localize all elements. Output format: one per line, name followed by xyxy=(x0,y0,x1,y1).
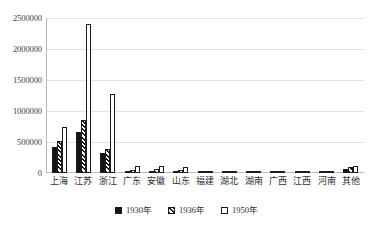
bar-group xyxy=(266,18,290,173)
bar-chart: 2500000 2000000 1500000 1000000 500000 0… xyxy=(0,0,373,236)
bar-group xyxy=(47,18,71,173)
x-axis-label: 山东 xyxy=(169,176,193,187)
bar-group xyxy=(96,18,120,173)
bar-1950年-江苏[interactable] xyxy=(86,24,91,173)
bar-group xyxy=(314,18,338,173)
bar-1950年-广西[interactable] xyxy=(280,171,285,173)
bar-group xyxy=(169,18,193,173)
bar-1950年-安徽[interactable] xyxy=(159,166,164,173)
x-axis-label: 上海 xyxy=(47,176,71,187)
bar-groups xyxy=(47,18,363,173)
chart-legend: 1930年1936年1950年 xyxy=(0,206,373,215)
bar-group xyxy=(71,18,95,173)
x-axis-label: 安徽 xyxy=(144,176,168,187)
x-axis-label: 江苏 xyxy=(71,176,95,187)
x-axis-label: 浙江 xyxy=(96,176,120,187)
bar-1950年-江西[interactable] xyxy=(305,171,310,173)
y-tick-label: 1500000 xyxy=(13,76,42,85)
bar-group xyxy=(217,18,241,173)
x-axis-label: 湖南 xyxy=(242,176,266,187)
legend-swatch-icon xyxy=(221,207,228,214)
legend-label: 1930年 xyxy=(126,206,152,215)
x-axis-label: 其他 xyxy=(339,176,363,187)
bar-1950年-湖南[interactable] xyxy=(256,171,261,173)
bar-1950年-河南[interactable] xyxy=(329,171,334,173)
bar-1950年-上海[interactable] xyxy=(62,127,67,174)
legend-item[interactable]: 1930年 xyxy=(115,206,152,215)
y-tick-label: 1000000 xyxy=(13,107,42,116)
x-axis-label: 河南 xyxy=(314,176,338,187)
x-axis-labels: 上海江苏浙江广东安徽山东福建湖北湖南广西江西河南其他 xyxy=(47,176,363,187)
legend-label: 1950年 xyxy=(232,206,258,215)
y-tick-label: 500000 xyxy=(17,138,42,147)
legend-label: 1936年 xyxy=(179,206,205,215)
legend-item[interactable]: 1936年 xyxy=(168,206,205,215)
bar-group xyxy=(339,18,363,173)
legend-item[interactable]: 1950年 xyxy=(221,206,258,215)
bar-1950年-山东[interactable] xyxy=(183,167,188,173)
x-axis-label: 福建 xyxy=(193,176,217,187)
bar-group xyxy=(242,18,266,173)
legend-swatch-icon xyxy=(168,207,175,214)
y-tick-label: 0 xyxy=(38,169,42,178)
y-tick-label: 2500000 xyxy=(13,14,42,23)
bar-1950年-浙江[interactable] xyxy=(110,94,115,173)
x-axis-label: 江西 xyxy=(290,176,314,187)
bar-1950年-福建[interactable] xyxy=(208,171,213,173)
bar-group xyxy=(193,18,217,173)
bar-group xyxy=(290,18,314,173)
y-tick-label: 2000000 xyxy=(13,45,42,54)
bar-1950年-广东[interactable] xyxy=(135,166,140,173)
bar-1950年-其他[interactable] xyxy=(353,166,358,173)
bar-group xyxy=(120,18,144,173)
x-axis-label: 湖北 xyxy=(217,176,241,187)
legend-swatch-icon xyxy=(115,207,122,214)
x-axis-label: 广东 xyxy=(120,176,144,187)
bar-1950年-湖北[interactable] xyxy=(232,171,237,173)
bar-group xyxy=(144,18,168,173)
x-axis-label: 广西 xyxy=(266,176,290,187)
